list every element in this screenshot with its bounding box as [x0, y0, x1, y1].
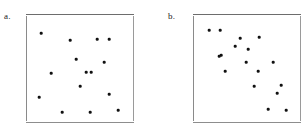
- panel-a-right-axis: [133, 16, 134, 121]
- data-point: [40, 32, 43, 35]
- panel-a-top-axis: [26, 14, 134, 15]
- data-point: [285, 109, 288, 112]
- panel-a-label: a.: [4, 12, 11, 21]
- data-point: [50, 72, 53, 75]
- data-point: [276, 92, 279, 95]
- panel-b-bottom-axis: [193, 122, 301, 123]
- data-point: [75, 58, 78, 61]
- data-point: [253, 85, 256, 88]
- data-point: [272, 61, 275, 64]
- data-point: [224, 70, 227, 73]
- data-point: [103, 61, 106, 64]
- data-point: [61, 111, 64, 114]
- data-point: [208, 29, 211, 32]
- data-point: [234, 45, 237, 48]
- panel-a-left-axis: [26, 16, 27, 121]
- data-point: [117, 109, 120, 112]
- panel-a: a.: [0, 0, 151, 131]
- data-point: [79, 85, 82, 88]
- data-point: [267, 108, 270, 111]
- panel-a-bottom-axis: [26, 122, 134, 123]
- data-point: [85, 71, 88, 74]
- panel-b-top-axis: [193, 14, 301, 15]
- data-point: [258, 36, 261, 39]
- panel-b-left-axis: [193, 16, 194, 121]
- panel-b-right-axis: [300, 16, 301, 121]
- data-point: [90, 71, 93, 74]
- data-point: [218, 55, 221, 58]
- data-point: [280, 84, 283, 87]
- data-point: [108, 93, 111, 96]
- data-point: [257, 70, 260, 73]
- data-point: [219, 29, 222, 32]
- data-point: [239, 37, 242, 40]
- scatter-plot-figure: a. b.: [0, 0, 303, 131]
- data-point: [38, 96, 41, 99]
- data-point: [247, 48, 250, 51]
- panel-b: b.: [152, 0, 303, 131]
- data-point: [245, 61, 248, 64]
- data-point: [89, 111, 92, 114]
- panel-b-label: b.: [168, 12, 175, 21]
- data-point: [96, 38, 99, 41]
- data-point: [108, 38, 111, 41]
- data-point: [69, 39, 72, 42]
